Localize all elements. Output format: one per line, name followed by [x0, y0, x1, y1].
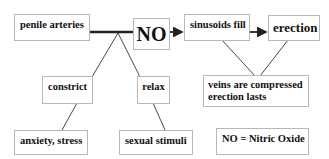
node-sexual-stimuli: sexual stimuli: [119, 130, 193, 155]
node-veins-compressed: veins are compressed erection lasts: [203, 75, 309, 107]
legend-no-nitric-oxide: NO = Nitric Oxide: [216, 128, 309, 155]
node-label: anxiety, stress: [20, 135, 82, 146]
node-label: relax: [142, 81, 165, 92]
node-label: sinusoids fill: [190, 19, 246, 30]
node-constrict: constrict: [42, 76, 93, 104]
node-label-line2: erection lasts: [208, 91, 304, 103]
node-relax: relax: [137, 76, 170, 104]
junction-to-constrict-line: [92, 33, 118, 77]
node-anxiety-stress: anxiety, stress: [14, 130, 88, 155]
sinusoids-to-veins-line: [222, 40, 255, 76]
node-label: penile arteries: [20, 19, 84, 30]
node-label: NO: [137, 23, 167, 45]
node-sinusoids-fill: sinusoids fill: [184, 14, 250, 41]
relax-to-stimuli-line: [153, 103, 165, 130]
node-penile-arteries: penile arteries: [14, 14, 90, 41]
node-label: constrict: [48, 81, 87, 92]
legend-label: NO = Nitric Oxide: [222, 133, 305, 144]
node-no: NO: [133, 18, 170, 50]
node-label: erection: [273, 20, 318, 35]
node-label: sexual stimuli: [125, 135, 187, 146]
erection-to-veins-line: [260, 40, 288, 76]
constrict-to-anxiety-line: [62, 103, 77, 130]
node-erection: erection: [268, 15, 320, 41]
node-label-line1: veins are compressed: [208, 79, 304, 91]
